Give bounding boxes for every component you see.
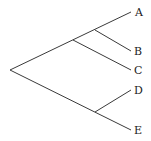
branch-root-to-e [10,70,131,130]
taxon-label-b: B [134,45,142,58]
taxon-label-c: C [134,64,142,77]
taxon-label-a: A [134,6,144,19]
branch-de-to-d [95,90,131,112]
taxon-label-e: E [134,124,142,137]
branch-root-to-a [10,12,131,70]
taxon-label-d: D [134,84,143,97]
branch-abc-to-c [73,40,131,70]
phylogenetic-tree: A B C D E [0,0,151,141]
branch-ab-to-b [95,30,131,51]
